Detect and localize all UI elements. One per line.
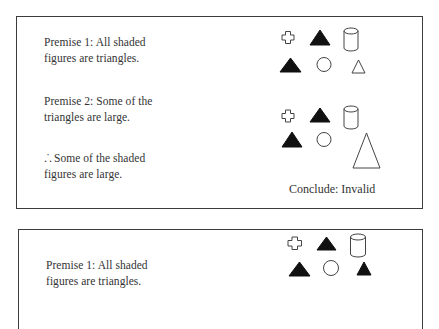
panel-2-premise-1-line-2: figures are triangles. [46, 273, 148, 289]
triangle-shaded-icon [289, 262, 310, 276]
triangle-shaded-icon [282, 132, 302, 147]
triangle-shaded-small-icon [357, 262, 371, 275]
cylinder-outline-icon [351, 234, 366, 257]
triangle-shaded-icon [317, 237, 336, 250]
triangle-outline-large-icon [353, 133, 380, 168]
cross-outline-icon [288, 237, 302, 250]
triangle-shaded-icon [310, 108, 330, 122]
triangle-shaded-icon [280, 58, 301, 72]
triangle-shaded-icon [310, 30, 330, 45]
circle-outline-icon [317, 58, 331, 72]
panel-2-premise-1: Premise 1: All shaded figures are triang… [46, 257, 148, 289]
circle-outline-icon [324, 261, 339, 276]
verdict-label: Conclude: Invalid [289, 182, 375, 197]
cross-outline-icon [282, 32, 294, 44]
circle-outline-icon [317, 133, 331, 147]
panel-2-premise-1-line-1: Premise 1: All shaded [46, 257, 148, 273]
cross-outline-icon [282, 110, 294, 122]
triangle-outline-small-icon [352, 60, 365, 73]
cylinder-outline-icon [344, 106, 358, 129]
cylinder-outline-icon [344, 28, 358, 51]
